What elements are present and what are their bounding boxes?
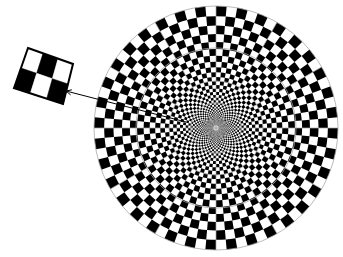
magnified-inset — [14, 48, 73, 104]
radial-checkerboard-figure — [0, 0, 343, 257]
